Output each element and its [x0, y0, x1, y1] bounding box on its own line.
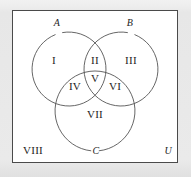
set-label-c: C — [93, 146, 100, 156]
venn-diagram-image: A B C I II III IV V VI VII VIII U — [0, 0, 191, 177]
universal-set-label: U — [164, 146, 171, 156]
set-label-a: A — [54, 18, 60, 28]
region-label-ii: II — [91, 55, 99, 66]
region-label-vii: VII — [87, 109, 103, 120]
region-label-iv: IV — [69, 81, 81, 92]
region-label-vi: VI — [109, 81, 121, 92]
circle-b — [84, 32, 158, 106]
region-label-v: V — [91, 73, 99, 84]
region-label-viii: VIII — [23, 145, 43, 156]
set-label-b: B — [127, 18, 133, 28]
region-label-iii: III — [125, 55, 137, 66]
region-label-i: I — [52, 55, 56, 66]
